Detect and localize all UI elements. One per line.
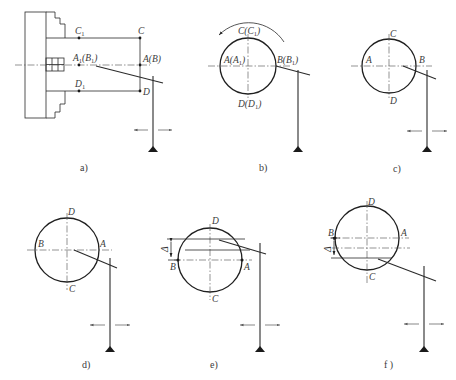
point-d <box>139 90 142 93</box>
point-c <box>139 37 142 40</box>
point-a <box>139 64 142 67</box>
label-left: A <box>365 55 372 65</box>
indicator-arm <box>219 240 266 254</box>
label-right: A <box>243 262 250 272</box>
chuck-jaw-bottom <box>46 91 65 118</box>
chuck-jaw-top <box>46 12 65 38</box>
point-b <box>177 259 180 262</box>
panel-d: D B A C d) <box>27 207 130 371</box>
caption-d: d) <box>82 359 90 371</box>
indicator-base-icon <box>293 146 303 152</box>
label-top: C(C1) <box>238 26 260 37</box>
label-bottom: C <box>69 284 76 294</box>
label-left: B <box>38 239 44 249</box>
label-right: A <box>400 228 407 238</box>
label-c: C <box>138 26 145 36</box>
label-delta: Δ <box>160 246 170 253</box>
label-left: B <box>328 228 334 238</box>
label-right: B(B1) <box>277 55 298 66</box>
point-a1 <box>78 64 81 67</box>
label-a1b1: A1(B1) <box>72 53 97 64</box>
caption-a: a) <box>80 162 88 174</box>
label-left: B <box>170 262 176 272</box>
label-top: D <box>367 197 375 207</box>
indicator-base-icon <box>105 346 115 352</box>
caption-b: b) <box>259 162 267 174</box>
indicator-arm <box>378 259 436 281</box>
panel-a: C1 C A1(B1) A(B) D1 D a) <box>15 12 172 174</box>
indicator-base-icon <box>422 146 432 152</box>
label-top: D <box>67 207 75 217</box>
chuck-center-jaw <box>46 58 64 71</box>
caption-e: e) <box>210 359 218 371</box>
label-bottom: D <box>389 96 397 106</box>
label-d1: D1 <box>74 79 85 90</box>
label-ab: A(B) <box>142 54 161 65</box>
indicator-arm <box>276 66 310 75</box>
point-d1 <box>78 90 81 93</box>
label-delta: Δ <box>323 246 333 253</box>
caption-f: f ) <box>384 359 393 371</box>
panel-c: C A B D c) <box>351 29 447 175</box>
point-b <box>334 237 337 240</box>
panel-b: C(C1) A(A1) B(B1) D(D1) b) <box>208 23 310 174</box>
indicator-base-icon <box>419 346 429 352</box>
label-c1: C1 <box>75 26 85 37</box>
label-bottom: C <box>212 294 219 304</box>
label-top: C <box>390 29 397 39</box>
caption-c: c) <box>393 163 401 175</box>
label-top: D <box>211 216 219 226</box>
label-right: A <box>99 239 106 249</box>
label-left: A(A1) <box>223 55 245 66</box>
indicator-base-icon <box>255 346 265 352</box>
point-c1 <box>78 37 81 40</box>
panel-e: D B A C Δ e) <box>160 216 280 371</box>
indicator-base-icon <box>148 146 158 152</box>
figure-canvas: C1 C A1(B1) A(B) D1 D a) C(C1) A(A1) B(B… <box>0 0 456 380</box>
label-d: D <box>142 87 150 97</box>
label-right: B <box>419 55 425 65</box>
panel-f: D B A C Δ f ) <box>323 197 444 371</box>
indicator-arm <box>403 66 436 79</box>
label-bottom: C <box>369 272 376 282</box>
label-bottom: D(D1) <box>237 99 261 110</box>
